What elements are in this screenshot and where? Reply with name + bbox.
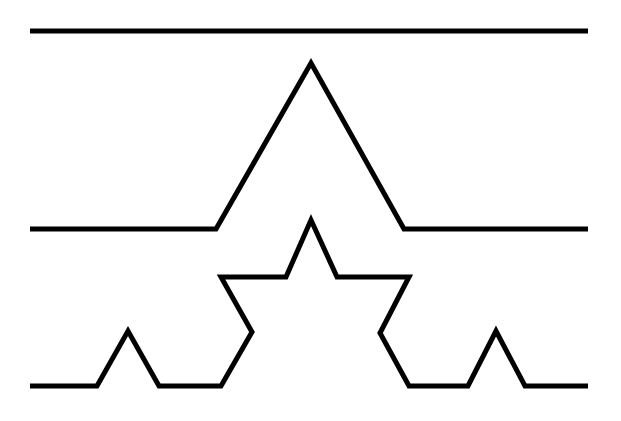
koch-figure: Koch curve construction Three successive… bbox=[0, 0, 621, 421]
koch-curve-diagram bbox=[0, 0, 621, 421]
